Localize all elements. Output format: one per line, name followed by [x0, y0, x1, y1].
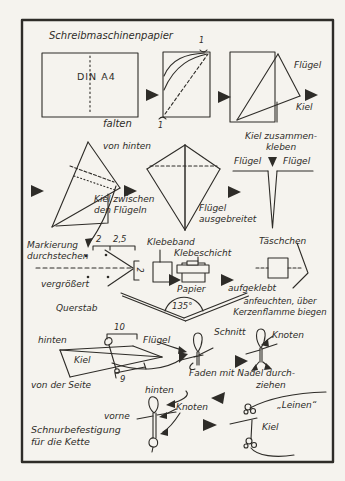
label-fluegel-ausgebreitet: Flügel ausgebreitet	[199, 203, 256, 226]
dimension-bracket: 2	[134, 267, 144, 272]
dimension-9: 9	[120, 374, 125, 385]
label-kiel-zusammenkleben: Kiel zusammen- kleben	[237, 131, 325, 154]
label-anfeuchten: anfeuchten, über Kerzenflamme biegen	[230, 296, 330, 317]
label-din-a4: DIN A4	[77, 71, 116, 83]
folded-wing-figure	[230, 52, 300, 122]
label-taeschchen: Täschchen	[259, 236, 306, 247]
label-hinten-1: hinten	[38, 335, 67, 346]
pocket-figure	[256, 243, 308, 288]
label-fluegel-2: Flügel	[143, 335, 170, 346]
arrow-down-icon	[268, 157, 277, 167]
label-fluegel-1: Flügel	[294, 60, 321, 71]
angle-value: 135°	[172, 301, 192, 312]
arrow-right-icon	[218, 91, 231, 103]
label-knoten-2: Knoten	[176, 402, 208, 413]
label-querstab: Querstab	[56, 303, 97, 314]
fold-mark-top: 1	[199, 36, 204, 46]
arrow-right-icon	[228, 186, 241, 198]
label-kiel-3: Kiel	[262, 422, 278, 433]
label-faden-1: Faden mit Nadel durch-	[189, 368, 295, 379]
label-faden-2: ziehen	[256, 380, 286, 391]
glue-layer-figure	[177, 257, 209, 282]
arrow-left-icon	[211, 392, 225, 404]
dimension-10: 10	[114, 322, 125, 333]
label-kiel-1: Kiel	[296, 102, 312, 113]
label-kiel-zwischen: Kiel zwischen den Flügeln	[94, 194, 154, 217]
label-klebeschicht: Klebeschicht	[174, 248, 231, 259]
label-title: Schreibmaschinenpapier	[49, 30, 173, 43]
label-fluegel-links: Flügel	[234, 156, 261, 167]
arrow-right-icon	[203, 419, 217, 431]
instruction-diagram: Schreibmaschinenpapier DIN A4 falten Flü…	[0, 0, 345, 481]
folded-sheet	[159, 50, 210, 119]
label-aufgeklebt: aufgeklebt	[228, 283, 276, 294]
arrow-right-icon	[146, 89, 159, 101]
label-vorne: vorne	[104, 411, 130, 422]
arrow-right-icon	[235, 355, 248, 368]
label-falten: falten	[103, 118, 132, 131]
arrow-right-icon	[305, 89, 318, 101]
label-knoten-1: Knoten	[272, 330, 304, 341]
arrow-right-icon	[31, 185, 44, 197]
label-schnitt: Schnitt	[214, 327, 246, 338]
fold-mark-bottom: 1	[158, 121, 163, 131]
dimension-2: 2	[96, 234, 101, 245]
string-front-figure	[137, 391, 187, 452]
label-markierung: Markierung durchstechen	[27, 240, 88, 263]
label-leinen: „Leinen“	[277, 400, 316, 411]
label-papier: Papier	[177, 284, 205, 295]
label-schnurbefestigung: Schnurbefestigung für die Kette	[31, 424, 121, 448]
label-klebeband: Klebeband	[147, 237, 195, 248]
label-vergroessert: vergrößert	[41, 279, 89, 290]
label-von-der-seite: von der Seite	[31, 380, 91, 391]
dimension-2-5: 2,5	[113, 234, 127, 245]
label-hinten-2: hinten	[145, 385, 174, 396]
sheet-din-a4	[42, 53, 138, 117]
label-von-hinten: von hinten	[103, 141, 151, 152]
label-kiel-2: Kiel	[74, 355, 90, 366]
label-fluegel-rechts: Flügel	[283, 156, 310, 167]
